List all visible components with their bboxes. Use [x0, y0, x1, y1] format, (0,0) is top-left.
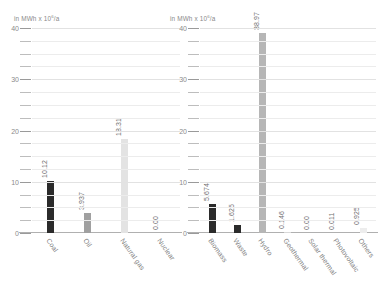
category-label-waste: Waste — [232, 237, 249, 257]
category-slot: Oil — [69, 233, 106, 293]
category-slot: Natural gas — [106, 233, 143, 293]
y-tick-minor — [20, 92, 31, 93]
gridline-minor — [200, 195, 376, 196]
y-tick-minor — [188, 66, 199, 67]
y-tick-minor — [188, 143, 199, 144]
y-tick-major — [188, 28, 199, 29]
bar-natural-gas: 18.31 — [121, 139, 128, 233]
category-label-hydro: Hydro — [257, 237, 274, 257]
category-label-natural-gas: Natural gas — [119, 237, 146, 271]
y-tick-major — [188, 233, 199, 234]
gridline-minor — [200, 92, 376, 93]
y-tick-minor — [20, 169, 31, 170]
y-tick-major — [188, 182, 199, 183]
y-tick-minor — [20, 143, 31, 144]
category-slot: Biomass — [200, 233, 225, 293]
y-axis-unit-prefix-right: in MWh x 10 — [170, 15, 207, 22]
gridline-minor — [200, 169, 376, 170]
category-slot: Geothermal — [275, 233, 300, 293]
y-tick-minor — [188, 156, 199, 157]
y-tick-minor — [188, 105, 199, 106]
bar-value-label: 18.31 — [114, 118, 121, 139]
y-tick-label-right: 10 — [179, 178, 187, 185]
y-tick-minor — [20, 105, 31, 106]
y-tick-major — [188, 79, 199, 80]
y-tick-minor — [20, 207, 31, 208]
gridline-minor — [200, 118, 376, 119]
y-tick-minor — [188, 169, 199, 170]
y-tick-label-left: 30 — [11, 76, 19, 83]
bar-value-label: 0.00 — [303, 216, 310, 233]
category-slot: Coal — [32, 233, 69, 293]
category-labels-right: BiomassWasteHydroGeothermalSolar thermal… — [200, 233, 376, 293]
y-tick-major — [20, 131, 31, 132]
bar-value-label: 0.146 — [278, 211, 285, 232]
gridline-minor — [200, 156, 376, 157]
gridline-minor — [200, 54, 376, 55]
gridline-major — [200, 131, 376, 132]
category-label-coal: Coal — [45, 237, 59, 253]
gridline-minor — [200, 66, 376, 67]
category-label-others: Others — [358, 237, 376, 259]
gridline-minor — [200, 105, 376, 106]
y-tick-label-right: 20 — [179, 127, 187, 134]
category-slot: Waste — [225, 233, 250, 293]
y-tick-minor — [20, 195, 31, 196]
bar-value-label: 0.011 — [328, 212, 335, 233]
y-tick-minor — [188, 54, 199, 55]
y-tick-minor — [188, 220, 199, 221]
y-axis-unit-label-right: in MWh x 106/a — [170, 15, 215, 22]
y-tick-label-left: 10 — [11, 178, 19, 185]
y-tick-minor — [20, 41, 31, 42]
gridline-major — [200, 28, 376, 29]
y-tick-label-right: 40 — [179, 25, 187, 32]
gridline-major — [200, 79, 376, 80]
y-tick-label-right: 0 — [183, 230, 187, 237]
bar-waste: 1.625 — [234, 225, 241, 233]
y-tick-major — [20, 79, 31, 80]
y-tick-minor — [20, 220, 31, 221]
y-tick-major — [20, 182, 31, 183]
y-tick-minor — [188, 41, 199, 42]
y-tick-minor — [188, 195, 199, 196]
y-axis-unit-suffix-right: /a — [210, 15, 216, 22]
bar-value-label: 10.12 — [40, 160, 47, 181]
y-tick-minor — [188, 118, 199, 119]
y-tick-minor — [20, 66, 31, 67]
gridline-major — [200, 182, 376, 183]
y-tick-minor — [188, 207, 199, 208]
chart-panel-renewables: in MWh x 106/a 5.6741.62538.970.1460.000… — [156, 0, 388, 300]
y-tick-major — [20, 28, 31, 29]
gridline-minor — [200, 220, 376, 221]
gridline-minor — [200, 143, 376, 144]
energy-production-figure: in MWh x 106/a 10.123.93718.310.00 CoalO… — [0, 0, 388, 300]
y-tick-major — [20, 233, 31, 234]
y-tick-label-right: 30 — [179, 76, 187, 83]
y-tick-label-left: 40 — [11, 25, 19, 32]
category-label-oil: Oil — [82, 237, 93, 248]
y-tick-minor — [20, 118, 31, 119]
gridline-minor — [200, 207, 376, 208]
category-slot: Solar thermal — [301, 233, 326, 293]
y-tick-label-left: 0 — [15, 230, 19, 237]
y-axis-unit-suffix-left: /a — [54, 15, 60, 22]
category-slot: Others — [351, 233, 376, 293]
y-axis-unit-label-left: in MWh x 106/a — [14, 15, 59, 22]
category-slot: Hydro — [250, 233, 275, 293]
gridline-minor — [200, 41, 376, 42]
y-tick-label-left: 20 — [11, 127, 19, 134]
bar-value-label: 5.674 — [202, 183, 209, 204]
y-tick-minor — [20, 156, 31, 157]
bar-value-label: 38.97 — [252, 12, 259, 33]
y-tick-major — [188, 131, 199, 132]
y-tick-minor — [20, 54, 31, 55]
category-slot: Photovoltaic — [326, 233, 351, 293]
bar-hydro: 38.97 — [259, 33, 266, 233]
bar-value-label: 0.925 — [353, 207, 360, 228]
y-tick-minor — [188, 92, 199, 93]
bar-oil: 3.937 — [84, 213, 91, 233]
plot-area-right: 5.6741.62538.970.1460.000.0110.925 Bioma… — [200, 28, 376, 233]
y-axis-unit-prefix-left: in MWh x 10 — [14, 15, 51, 22]
